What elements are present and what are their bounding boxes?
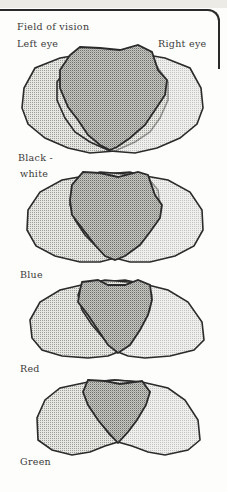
panel-field-of-vision — [22, 45, 203, 153]
visual-field-diagram — [0, 0, 227, 492]
panel-black-white — [27, 172, 203, 262]
panel-blue — [30, 280, 204, 358]
panel-green — [37, 380, 200, 455]
